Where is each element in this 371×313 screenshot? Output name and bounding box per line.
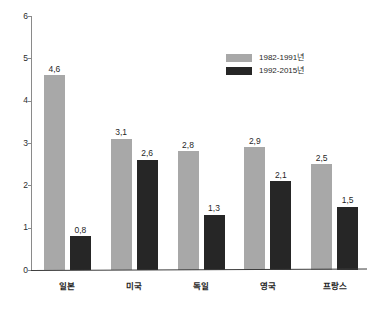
y-axis-tick-label: 0 xyxy=(0,266,28,275)
y-axis-tick-mark xyxy=(28,16,31,17)
y-axis-tick-label: 1 xyxy=(0,223,28,232)
legend-swatch-icon xyxy=(226,54,252,62)
bar-group: 3,12,6 xyxy=(111,16,158,270)
legend-swatch-icon xyxy=(226,67,252,75)
bar-value-label: 2,5 xyxy=(316,154,328,163)
y-axis-tick-label: 5 xyxy=(0,54,28,63)
bar-value-label: 3,1 xyxy=(115,128,127,137)
bar-value-label: 0,8 xyxy=(74,226,86,235)
legend-label: 1992-2015년 xyxy=(259,67,304,75)
bar-value-label: 1,3 xyxy=(208,204,220,213)
x-axis-category-label: 독일 xyxy=(178,282,225,291)
bar[interactable]: 2,9 xyxy=(244,147,265,270)
bar-group: 4,60,8 xyxy=(44,16,91,270)
y-axis-tick-mark xyxy=(28,143,31,144)
bar[interactable]: 0,8 xyxy=(70,236,91,270)
bar[interactable]: 2,6 xyxy=(137,160,158,270)
bar-group: 2,81,3 xyxy=(178,16,225,270)
y-axis-tick-mark xyxy=(28,185,31,186)
y-axis-tick-label: 6 xyxy=(0,12,28,21)
x-axis-category-label: 프랑스 xyxy=(311,282,358,291)
bar-value-label: 2,9 xyxy=(249,137,261,146)
bar-chart: 0123456 4,60,83,12,62,81,32,92,12,51,5 일… xyxy=(0,0,371,313)
x-axis-category-label: 일본 xyxy=(44,282,91,291)
bar[interactable]: 4,6 xyxy=(44,75,65,270)
bar[interactable]: 2,1 xyxy=(270,181,291,270)
legend-item[interactable]: 1982-1991년 xyxy=(226,52,304,63)
y-axis-tick-label: 3 xyxy=(0,139,28,148)
x-axis-category-label: 미국 xyxy=(111,282,158,291)
bar-value-label: 2,6 xyxy=(141,149,153,158)
legend-item[interactable]: 1992-2015년 xyxy=(226,65,304,76)
bar-value-label: 2,8 xyxy=(182,141,194,150)
y-axis-tick-mark xyxy=(28,58,31,59)
plot-area: 4,60,83,12,62,81,32,92,12,51,5 xyxy=(32,16,366,270)
y-axis-tick-label: 4 xyxy=(0,96,28,105)
bar[interactable]: 2,5 xyxy=(311,164,332,270)
y-axis-tick-mark xyxy=(28,228,31,229)
bar[interactable]: 1,5 xyxy=(337,207,358,271)
bar-group: 2,51,5 xyxy=(311,16,358,270)
legend-label: 1982-1991년 xyxy=(259,54,304,62)
bar-value-label: 2,1 xyxy=(275,171,287,180)
bar-value-label: 1,5 xyxy=(342,196,354,205)
y-axis-tick-label: 2 xyxy=(0,181,28,190)
chart-legend: 1982-1991년 1992-2015년 xyxy=(226,52,304,78)
bar[interactable]: 3,1 xyxy=(111,139,132,270)
bar-value-label: 4,6 xyxy=(48,65,60,74)
x-axis-category-label: 영국 xyxy=(244,282,291,291)
bar[interactable]: 2,8 xyxy=(178,151,199,270)
y-axis-tick-mark xyxy=(28,101,31,102)
bar[interactable]: 1,3 xyxy=(204,215,225,270)
